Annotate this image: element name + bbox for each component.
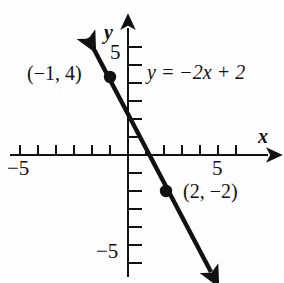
graph-figure: y x 5 −5 −5 5 (−1, 4) (2, −2) y = −2x + … (0, 0, 284, 283)
x-axis (10, 145, 268, 155)
y-tick-label-5: 5 (110, 42, 121, 63)
x-axis-label: x (258, 126, 268, 146)
y-axis-label: y (104, 22, 113, 42)
point-label-neg1-4: (−1, 4) (27, 63, 82, 83)
data-point-marker-neg1-4 (104, 71, 116, 83)
point-label-2-neg2: (2, −2) (183, 181, 238, 201)
x-tick-label-negative-5: −5 (7, 158, 29, 179)
y-tick-label-negative-5: −5 (96, 241, 118, 262)
y-axis (128, 28, 142, 277)
x-tick-label-5: 5 (212, 158, 223, 179)
data-point-marker-2-neg2 (160, 185, 172, 197)
coordinate-plane-svg (0, 0, 284, 283)
equation-annotation: y = −2x + 2 (147, 62, 245, 82)
